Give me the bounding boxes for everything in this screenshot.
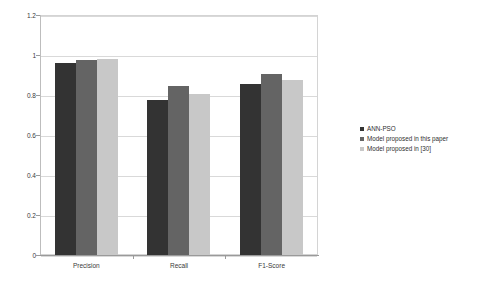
- bar-series-layer: [40, 15, 318, 255]
- bar: [147, 100, 168, 255]
- bar: [55, 63, 76, 255]
- legend-swatch-icon: [360, 137, 364, 141]
- bar: [168, 86, 189, 255]
- y-tick-label: 0.2: [27, 212, 36, 219]
- bar: [76, 60, 97, 255]
- bar: [282, 80, 303, 255]
- legend-label: ANN-PSO: [367, 125, 396, 132]
- y-tick-label: 0.4: [27, 172, 36, 179]
- y-tick-label: 0.8: [27, 92, 36, 99]
- legend-swatch-icon: [360, 127, 364, 131]
- x-tick-label: Recall: [139, 262, 219, 270]
- bar-group: [40, 15, 133, 255]
- bar-chart: 00.20.40.60.811.2 PrecisionRecallF1-Scor…: [0, 0, 486, 282]
- y-tick-label: 1.2: [27, 12, 36, 19]
- bar-group: [133, 15, 226, 255]
- bar-group: [225, 15, 318, 255]
- x-tick-mark: [133, 255, 134, 259]
- bar: [97, 59, 118, 255]
- chart-legend: ANN-PSOModel proposed in this paperModel…: [360, 124, 484, 154]
- x-tick-mark: [225, 255, 226, 259]
- legend-label: Model proposed in [30]: [367, 145, 431, 152]
- bar: [189, 94, 210, 255]
- legend-item[interactable]: Model proposed in this paper: [360, 134, 484, 143]
- legend-swatch-icon: [360, 147, 364, 151]
- gridline-0: [41, 256, 317, 257]
- legend-item[interactable]: ANN-PSO: [360, 124, 484, 133]
- y-tick-mark: [36, 255, 40, 256]
- bar: [261, 74, 282, 255]
- legend-label: Model proposed in this paper: [367, 135, 448, 142]
- x-axis-line: [40, 255, 319, 256]
- x-tick-label: Precision: [46, 262, 126, 270]
- x-tick-label: F1-Score: [232, 262, 312, 270]
- legend-item[interactable]: Model proposed in [30]: [360, 144, 484, 153]
- y-tick-label: 0.6: [27, 132, 36, 139]
- bar: [240, 84, 261, 255]
- y-axis-ticks: 00.20.40.60.811.2: [0, 0, 36, 282]
